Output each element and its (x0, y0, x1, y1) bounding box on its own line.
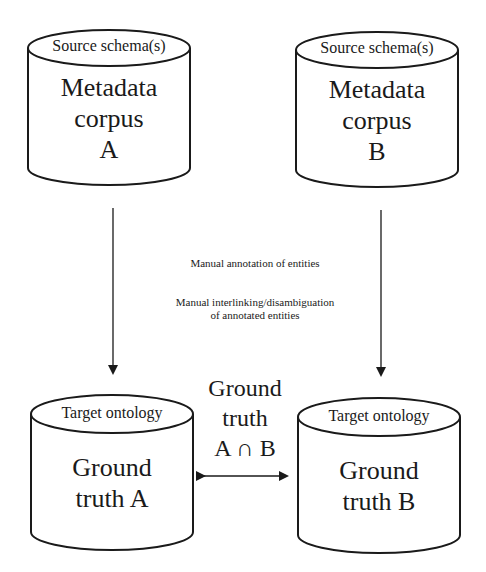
body-line: B (296, 136, 458, 167)
body-label-ground-truth-b: Ground truth B (298, 455, 460, 517)
intersection-label: Ground truth A ∩ B (190, 373, 300, 463)
body-label-ground-truth-a: Ground truth A (31, 452, 193, 514)
intersection-line: Ground (190, 373, 300, 403)
cap-label-target-ontology-b: Target ontology (298, 407, 460, 425)
body-line: Metadata (28, 72, 190, 103)
cap-label-source-schema-a: Source schema(s) (28, 37, 190, 55)
cap-label-target-ontology-a: Target ontology (31, 404, 193, 422)
process-line: of annotated entities (130, 309, 380, 322)
process-step-annotation: Manual annotation of entities (130, 257, 380, 270)
intersection-line: A ∩ B (190, 433, 300, 463)
body-line: truth B (298, 486, 460, 517)
body-line: Metadata (296, 74, 458, 105)
body-label-corpus-b: Metadata corpus B (296, 74, 458, 167)
body-line: corpus (296, 105, 458, 136)
cap-label-source-schema-b: Source schema(s) (296, 39, 458, 57)
body-label-corpus-a: Metadata corpus A (28, 72, 190, 165)
body-line: Ground (31, 452, 193, 483)
process-step-interlinking: Manual interlinking/disambiguation of an… (130, 296, 380, 321)
body-line: corpus (28, 103, 190, 134)
process-line: Manual interlinking/disambiguation (130, 296, 380, 309)
body-line: truth A (31, 483, 193, 514)
intersection-line: truth (190, 403, 300, 433)
body-line: Ground (298, 455, 460, 486)
body-line: A (28, 134, 190, 165)
